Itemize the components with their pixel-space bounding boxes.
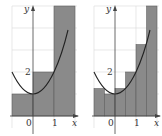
tick-y2: 2 bbox=[25, 67, 31, 77]
y-axis-label: y bbox=[23, 4, 30, 14]
tick-y2: 2 bbox=[107, 67, 113, 77]
tick-0: 0 bbox=[26, 118, 32, 128]
y-axis-label: y bbox=[105, 4, 112, 14]
x-axis-label: x bbox=[72, 118, 77, 128]
left-chart: y x 0 1 2 bbox=[10, 4, 79, 134]
tick-0: 0 bbox=[108, 118, 114, 128]
tick-1: 1 bbox=[52, 118, 58, 128]
riemann-sum-figure: y x 0 1 2 y bbox=[0, 0, 162, 136]
riemann-rectangles bbox=[12, 6, 75, 116]
right-chart: y x 0 1 2 bbox=[92, 4, 161, 134]
tick-1: 1 bbox=[134, 118, 140, 128]
x-axis-label: x bbox=[154, 118, 159, 128]
riemann-rectangles bbox=[94, 6, 157, 116]
